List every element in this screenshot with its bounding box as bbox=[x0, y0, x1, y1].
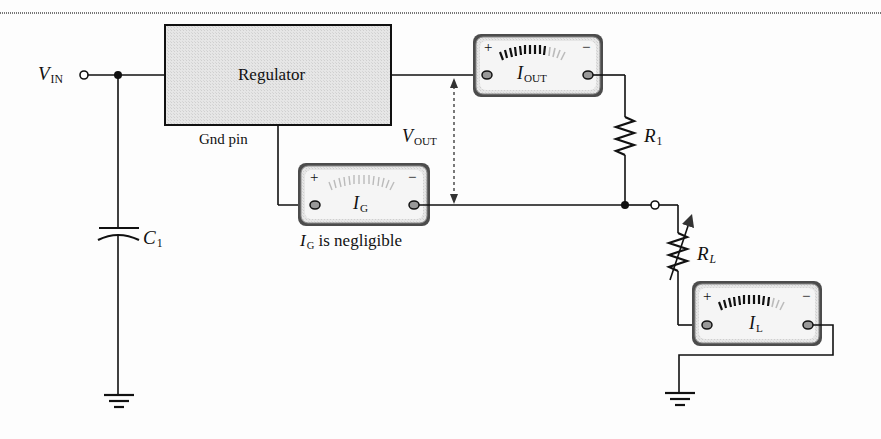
iout-minus-sign: − bbox=[582, 40, 590, 55]
output-terminal bbox=[651, 201, 659, 209]
resistor-r1 bbox=[616, 117, 634, 155]
rl-label: RL bbox=[697, 244, 716, 266]
iout-label: IOUT bbox=[517, 64, 547, 84]
circuit-diagram: VIN Regulator Gnd pin VOUT C1 R1 RL + − … bbox=[0, 0, 881, 439]
c1-label: C1 bbox=[143, 228, 163, 250]
vin-label: VIN bbox=[38, 64, 63, 86]
schematic-drawing bbox=[0, 0, 881, 439]
il-label: IL bbox=[749, 314, 763, 334]
regulator-label: Regulator bbox=[238, 66, 305, 83]
vout-label: VOUT bbox=[402, 127, 437, 147]
ig-plus-sign: + bbox=[310, 170, 318, 185]
ig-note: IG is negligible bbox=[300, 232, 402, 251]
il-minus-sign: − bbox=[802, 289, 810, 304]
iout-plus-sign: + bbox=[484, 40, 492, 55]
il-plus-sign: + bbox=[703, 289, 711, 304]
ig-label: IG bbox=[353, 194, 368, 214]
ig-minus-sign: − bbox=[408, 170, 416, 185]
r1-label: R1 bbox=[644, 126, 663, 148]
gnd-pin-label: Gnd pin bbox=[199, 132, 248, 147]
vin-terminal bbox=[80, 71, 88, 79]
